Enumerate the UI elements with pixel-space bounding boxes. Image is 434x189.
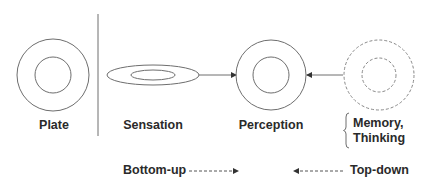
memory-thinking-node xyxy=(344,40,414,110)
perception-node xyxy=(236,40,306,110)
bottom-up-label: Bottom-up xyxy=(123,164,186,177)
diagram-canvas xyxy=(0,0,434,189)
perception-label: Perception xyxy=(239,119,304,132)
sensation-label: Sensation xyxy=(123,119,183,132)
top-down-label: Top-down xyxy=(350,164,409,177)
plate-node xyxy=(17,39,89,111)
plate-label: Plate xyxy=(39,119,69,132)
memory-label: Memory, xyxy=(353,117,403,130)
thinking-label: Thinking xyxy=(353,132,405,145)
sensation-node xyxy=(107,65,199,85)
brace-icon xyxy=(344,113,350,148)
